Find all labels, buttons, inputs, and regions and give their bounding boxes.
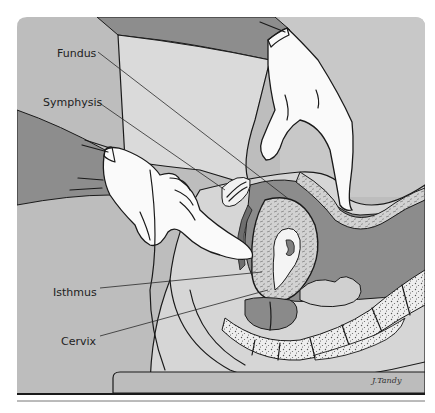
label-cervix: Cervix [61,335,97,348]
bimanual-exam-illustration: Fundus Symphysis Isthmus Cervix J.Tandy [0,0,435,413]
artist-signature: J.Tandy [370,376,402,385]
label-isthmus: Isthmus [53,286,97,299]
label-symphysis: Symphysis [43,96,102,109]
label-fundus: Fundus [57,47,97,60]
illustration-frame: Fundus Symphysis Isthmus Cervix J.Tandy [17,17,425,393]
